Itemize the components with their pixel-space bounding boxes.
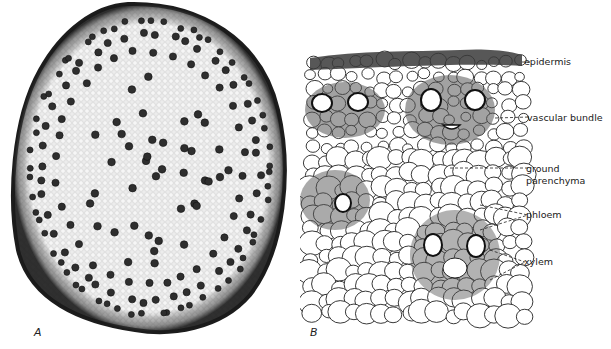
label-vascular-bundle: vascular bundle [527,112,603,123]
vascular-bundle-2 [405,75,495,145]
panel-a-stem-cross-section: A [0,0,300,349]
label-xylem: xylem [524,256,553,267]
label-phloem: phloem [526,209,562,220]
stem-cross-section-image [0,0,300,349]
panel-label-a: A [34,326,42,339]
label-parenchyma: parenchyma [526,175,585,186]
panel-b-tissue-drawing: epidermis vascular bundle ground parench… [300,0,611,349]
vascular-bundle-3 [300,170,370,230]
label-epidermis: epidermis [524,56,571,67]
vascular-bundle-4 [410,210,500,300]
panel-label-b: B [310,326,318,339]
label-ground: ground [526,163,560,174]
vascular-bundle-1 [305,82,385,138]
